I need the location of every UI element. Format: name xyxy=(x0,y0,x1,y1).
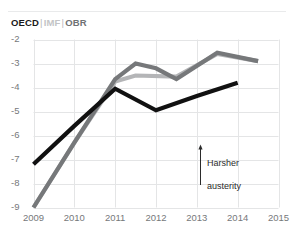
y-axis-tick-neg3: -3 xyxy=(11,58,31,68)
y-axis-tick-neg5: -5 xyxy=(11,106,31,116)
chart-figure: OECD|IMF|OBR -2-3-4-5-6-7-8-9 2009201020… xyxy=(0,0,294,237)
x-axis-tick-2014: 2014 xyxy=(218,213,258,223)
y-axis-tick-neg6: -6 xyxy=(11,130,31,140)
y-axis-tick-neg4: -4 xyxy=(11,82,31,92)
x-axis-tick-2009: 2009 xyxy=(14,213,54,223)
y-axis-tick-neg9: -9 xyxy=(11,202,31,212)
x-axis-tick-2012: 2012 xyxy=(136,213,176,223)
y-axis-tick-neg7: -7 xyxy=(11,154,31,164)
x-axis-tick-2010: 2010 xyxy=(54,213,94,223)
plot-area xyxy=(0,0,294,237)
y-axis-tick-neg2: -2 xyxy=(11,34,31,44)
x-axis-tick-2011: 2011 xyxy=(95,213,135,223)
x-axis-tick-2015: 2015 xyxy=(259,213,295,223)
annotation-line-2: austerity xyxy=(207,181,241,193)
harsher-austerity-arrow-icon xyxy=(198,145,202,186)
annotation-harsher-austerity: Harsher austerity xyxy=(207,146,241,204)
annotation-line-1: Harsher xyxy=(207,158,241,170)
y-axis-tick-neg8: -8 xyxy=(11,178,31,188)
gridlines xyxy=(34,40,280,209)
x-axis-tick-2013: 2013 xyxy=(177,213,217,223)
